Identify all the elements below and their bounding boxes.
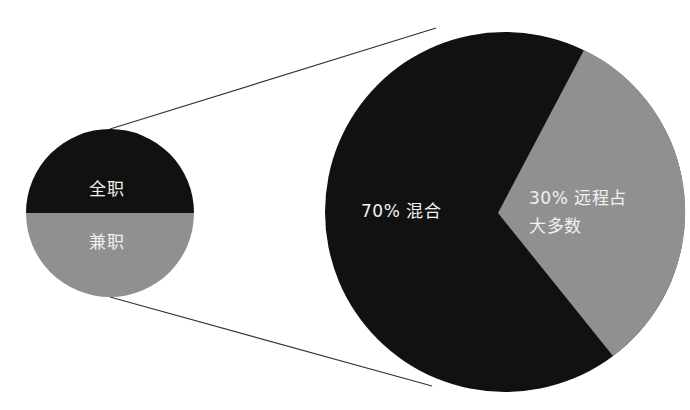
label-parttime: 兼职 [89,230,124,254]
label-fulltime: 全职 [89,177,124,201]
label-hybrid: 70% 混合 [361,199,441,223]
summary-pie [26,129,194,297]
slice-parttime[interactable] [26,213,194,297]
label-remote: 30% 远程占 大多数 [529,184,627,240]
